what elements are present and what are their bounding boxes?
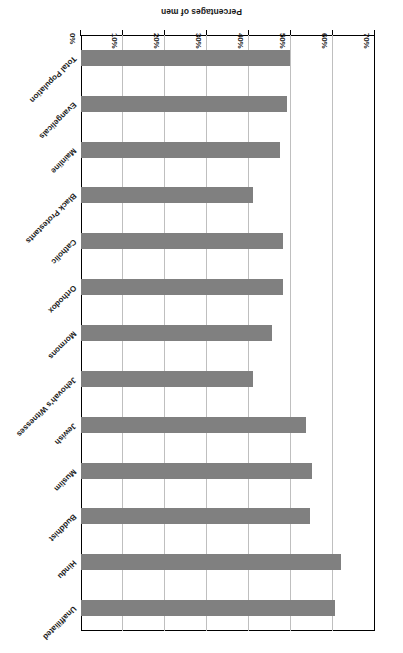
bar bbox=[81, 417, 306, 433]
axis-tick-50 bbox=[290, 30, 291, 35]
category-label: Mainline bbox=[49, 146, 78, 175]
axis-tick-10 bbox=[122, 30, 123, 35]
bar bbox=[81, 279, 283, 295]
value-axis-title: Percentages of men bbox=[0, 7, 403, 17]
bar bbox=[81, 233, 283, 249]
category-label: Mormons bbox=[46, 329, 78, 361]
category-label: Evangelicals bbox=[38, 100, 79, 141]
axis-tick-40 bbox=[248, 30, 249, 35]
bar bbox=[81, 142, 281, 158]
bar bbox=[81, 463, 312, 479]
category-label: Orthodox bbox=[46, 283, 78, 315]
bar bbox=[81, 600, 335, 616]
bar bbox=[81, 325, 272, 341]
bar bbox=[81, 187, 253, 203]
bar bbox=[81, 371, 253, 387]
axis-tick-label: 40% bbox=[236, 33, 245, 48]
bar bbox=[81, 50, 290, 66]
axis-tick-60 bbox=[332, 30, 333, 35]
bar bbox=[81, 508, 310, 524]
axis-tick-label: 20% bbox=[152, 33, 161, 48]
category-label: Total Population bbox=[28, 54, 78, 104]
category-label: Catholic bbox=[49, 238, 78, 267]
bar bbox=[81, 554, 341, 570]
axis-tick-label: 0% bbox=[68, 33, 77, 44]
value-axis-line bbox=[80, 35, 375, 36]
category-label: Buddhist bbox=[47, 513, 78, 544]
axis-tick-20 bbox=[164, 30, 165, 35]
gridline-50 bbox=[290, 35, 291, 631]
axis-tick-label: 50% bbox=[278, 33, 287, 48]
category-label: Unaffiliated bbox=[41, 604, 78, 641]
bar-chart: 0%10%20%30%40%50%60%70% Total Population… bbox=[0, 0, 403, 653]
axis-tick-label: 70% bbox=[362, 33, 371, 48]
category-label: Hindu bbox=[56, 559, 78, 581]
axis-tick-label: 10% bbox=[110, 33, 119, 48]
axis-tick-0 bbox=[80, 30, 81, 35]
bar bbox=[81, 96, 287, 112]
category-label: Muslim bbox=[52, 467, 78, 493]
axis-tick-70 bbox=[374, 30, 375, 35]
axis-tick-label: 60% bbox=[320, 33, 329, 48]
axis-tick-label: 30% bbox=[194, 33, 203, 48]
gridline-60 bbox=[332, 35, 333, 631]
chart-figure-rotated: 0%10%20%30%40%50%60%70% Total Population… bbox=[0, 0, 403, 653]
category-label: Jewish bbox=[53, 421, 78, 446]
axis-tick-30 bbox=[206, 30, 207, 35]
